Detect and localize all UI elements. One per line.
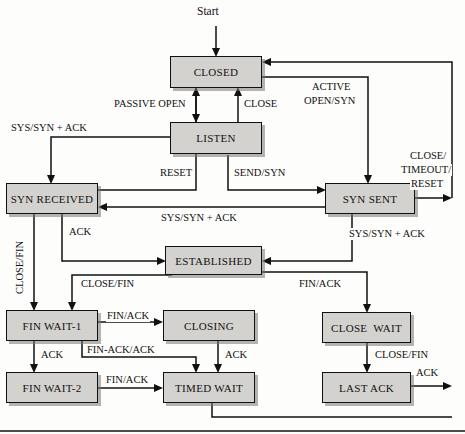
edge-start-to-closed	[212, 26, 220, 57]
state-label: FIN WAIT-1	[23, 320, 82, 332]
state-last-ack[interactable]: LAST ACK	[322, 372, 411, 403]
label-fin-ack-fin-wait-2: FIN/ACK	[105, 374, 149, 386]
state-fin-wait-2[interactable]: FIN WAIT-2	[6, 372, 98, 403]
state-label: LISTEN	[196, 132, 236, 144]
tcp-state-diagram: CLOSED LISTEN SYN RECEIVED SYN SENT ESTA…	[0, 0, 465, 434]
label-ack-established: ACK	[68, 226, 92, 238]
label-start: Start	[196, 6, 220, 18]
state-close-wait[interactable]: CLOSE WAIT	[322, 312, 411, 343]
edge-timed-wait-to-closed	[212, 403, 452, 417]
edge-listen-to-closed	[234, 87, 242, 122]
edge-syn-sent-to-established	[262, 214, 352, 265]
label-close-fin-established: CLOSE/FIN	[80, 278, 135, 290]
state-listen[interactable]: LISTEN	[170, 122, 262, 154]
label-ack-fin-wait-2: ACK	[40, 349, 64, 361]
label-passive-open: PASSIVE OPEN	[113, 98, 187, 110]
state-label: LAST ACK	[339, 382, 394, 394]
edge-syn-received-to-established	[62, 214, 166, 265]
state-closing[interactable]: CLOSING	[163, 310, 255, 341]
label-ack-last-ack: ACK	[415, 367, 439, 379]
label-close-timeout-line2: TIMEOUT/	[400, 164, 452, 176]
label-reset: RESET	[159, 167, 193, 179]
state-label: SYN RECEIVED	[11, 193, 94, 205]
label-close-timeout-line1: CLOSE/	[409, 150, 447, 162]
label-close: CLOSE	[243, 98, 278, 110]
label-fin-ack-established: FIN/ACK	[298, 278, 342, 290]
state-closed[interactable]: CLOSED	[170, 56, 262, 88]
state-label: CLOSING	[184, 320, 234, 332]
state-syn-received[interactable]: SYN RECEIVED	[6, 183, 98, 214]
label-close-timeout-line3: RESET	[410, 178, 444, 190]
state-label: CLOSE WAIT	[331, 322, 402, 334]
label-fin-ack-closing: FIN/ACK	[106, 310, 150, 322]
edge-syn-received-to-fin-wait-1	[30, 214, 38, 311]
state-established[interactable]: ESTABLISHED	[165, 246, 262, 275]
edge-close-wait-to-last-ack	[363, 343, 371, 373]
edge-syn-sent-to-syn-received	[98, 203, 325, 211]
label-send-syn: SEND/SYN	[233, 167, 286, 179]
edge-fin-wait-1-to-fin-wait-2	[30, 341, 38, 373]
label-close-fin-vertical: CLOSE/FIN	[14, 240, 26, 295]
state-label: ESTABLISHED	[175, 255, 251, 267]
label-close-fin-close-wait: CLOSE/FIN	[374, 349, 429, 361]
state-label: SYN SENT	[343, 193, 398, 205]
edge-closing-to-timed-wait	[214, 341, 222, 373]
label-sys-syn-ack-listen: SYS/SYN + ACK	[10, 122, 88, 134]
state-syn-sent[interactable]: SYN SENT	[325, 183, 415, 214]
label-sys-syn-ack-mid: SYS/SYN + ACK	[160, 212, 238, 224]
edge-last-ack-to-closed	[411, 382, 452, 390]
label-sys-syn-ack-right: SYS/SYN + ACK	[348, 228, 426, 240]
label-active-open-line2: OPEN/SYN	[303, 95, 356, 107]
label-active-open-line1: ACTIVE	[311, 81, 352, 93]
label-fin-ack-ack: FIN-ACK/ACK	[86, 344, 156, 356]
state-fin-wait-1[interactable]: FIN WAIT-1	[6, 310, 98, 341]
state-timed-wait[interactable]: TIMED WAIT	[163, 372, 255, 403]
edge-listen-to-syn-received	[47, 137, 170, 184]
state-label: FIN WAIT-2	[23, 382, 82, 394]
state-label: TIMED WAIT	[175, 382, 243, 394]
state-label: CLOSED	[194, 66, 239, 78]
label-ack-closing: ACK	[224, 349, 248, 361]
